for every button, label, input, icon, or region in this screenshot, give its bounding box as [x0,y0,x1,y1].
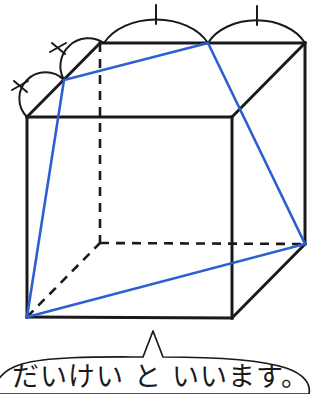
edge-front-bottom [27,317,232,318]
hidden-edge-back-bottom-right [100,243,305,244]
solid-edges-group [27,43,305,318]
arc-mark-1 [19,72,64,117]
figure-canvas: だいけい と いいます。 [0,0,321,394]
edge-bottom-right-receding [232,244,305,318]
arc-marks-group [12,5,305,117]
caption-label: だいけい と いいます。 [0,361,321,393]
cube-diagram [0,0,321,394]
edge-top-right-receding [232,43,305,117]
